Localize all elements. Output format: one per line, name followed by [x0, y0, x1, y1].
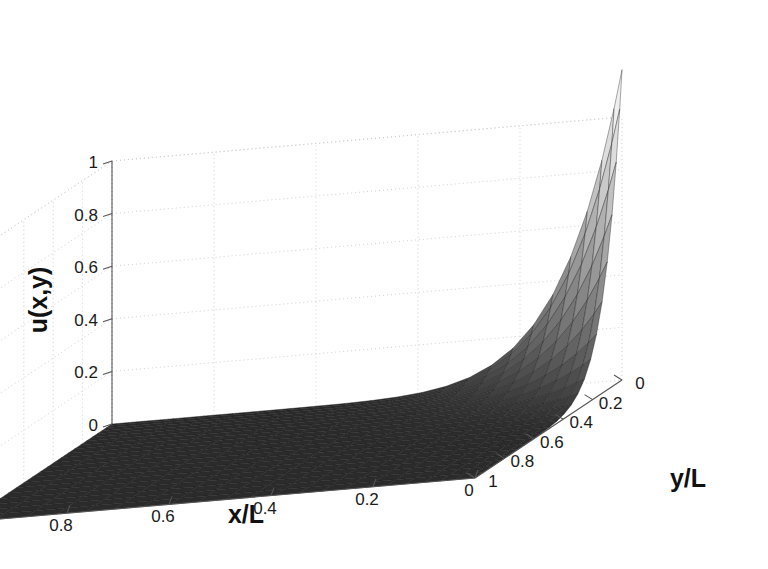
- y-tick-label: 0: [635, 374, 644, 393]
- y-tick-label: 0.2: [599, 394, 623, 413]
- y-tick-label: 0.8: [511, 452, 535, 471]
- z-tick-label: 0.2: [74, 363, 98, 382]
- x-axis-title: x/L: [228, 500, 264, 528]
- z-tick-label: 0: [89, 416, 98, 435]
- z-axis-tick: [103, 371, 112, 374]
- figure-canvas: 00.20.40.60.8110.80.60.40.2000.20.40.60.…: [0, 0, 768, 569]
- z-axis-tick: [103, 319, 112, 322]
- z-tick-label: 0.6: [74, 258, 98, 277]
- gridline-box-top-edge: [112, 117, 622, 161]
- y-axis-tick: [614, 375, 622, 380]
- x-tick-label: 0.2: [355, 490, 379, 509]
- y-tick-label: 1: [488, 472, 497, 491]
- z-tick-label: 0.8: [74, 206, 98, 225]
- z-axis-title: u(x,y): [24, 267, 52, 334]
- gridline-wall-y0-horizontal: [112, 222, 622, 266]
- z-axis-tick: [103, 161, 112, 164]
- y-tick-label: 0.6: [540, 433, 564, 452]
- y-axis-title: y/L: [670, 464, 706, 492]
- surface-plot-svg: 00.20.40.60.8110.80.60.40.2000.20.40.60.…: [0, 0, 768, 569]
- x-tick-label: 0: [464, 481, 473, 500]
- z-axis-tick: [103, 214, 112, 217]
- x-tick-label: 0.6: [151, 507, 175, 526]
- gridline-wall-y0-horizontal: [112, 170, 622, 214]
- z-tick-label: 0.4: [74, 311, 98, 330]
- y-tick-label: 0.4: [569, 413, 593, 432]
- z-axis-tick: [103, 266, 112, 269]
- y-axis-tick: [585, 395, 593, 400]
- x-tick-label: 0.8: [49, 516, 73, 535]
- z-tick-label: 1: [89, 153, 98, 172]
